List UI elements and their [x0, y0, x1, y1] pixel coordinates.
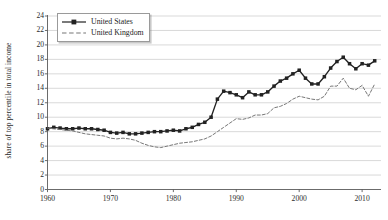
data-point-marker	[310, 82, 314, 86]
data-point-marker	[216, 97, 220, 101]
solid-line-with-square-marker-icon	[61, 17, 87, 27]
data-point-marker	[285, 76, 289, 80]
data-point-marker	[228, 91, 232, 95]
data-point-marker	[71, 127, 75, 130]
series-line-united-states	[48, 57, 375, 134]
legend-item-united-kingdom: United Kingdom	[61, 27, 144, 38]
data-point-marker	[172, 128, 176, 132]
data-point-marker	[247, 90, 251, 94]
data-point-marker	[253, 93, 257, 97]
data-point-marker	[159, 130, 163, 134]
data-point-marker	[316, 82, 320, 86]
legend: United States United Kingdom	[57, 13, 150, 42]
data-point-marker	[146, 131, 150, 135]
data-point-marker	[102, 128, 106, 132]
chart-figure: share of top percentile in total income …	[0, 0, 388, 220]
data-point-marker	[178, 129, 182, 133]
data-point-marker	[134, 132, 138, 136]
legend-label-united-kingdom: United Kingdom	[91, 29, 144, 37]
data-point-marker	[272, 84, 276, 88]
data-point-marker	[153, 130, 157, 134]
data-point-marker	[329, 66, 333, 70]
legend-item-united-states: United States	[61, 16, 144, 27]
data-point-marker	[128, 132, 132, 136]
data-point-marker	[190, 126, 194, 130]
dashed-line-icon	[61, 28, 87, 38]
data-point-marker	[121, 131, 125, 135]
data-point-marker	[348, 62, 352, 66]
data-point-marker	[197, 123, 201, 127]
data-point-marker	[96, 128, 100, 132]
legend-label-united-states: United States	[91, 18, 133, 26]
data-point-marker	[109, 131, 113, 135]
data-point-marker	[184, 127, 188, 130]
data-point-marker	[77, 126, 81, 130]
data-point-marker	[84, 127, 88, 130]
data-point-marker	[140, 131, 144, 135]
data-point-marker	[304, 76, 308, 80]
data-point-marker	[279, 79, 283, 83]
data-point-marker	[165, 129, 169, 133]
data-point-marker	[291, 72, 295, 76]
data-point-marker	[115, 131, 119, 135]
data-point-marker	[360, 62, 364, 66]
data-point-marker	[266, 90, 270, 94]
data-point-marker	[260, 93, 264, 97]
data-point-marker	[354, 67, 358, 71]
data-point-marker	[297, 68, 301, 72]
data-point-marker	[209, 115, 213, 119]
data-point-marker	[323, 75, 327, 79]
data-point-marker	[235, 93, 239, 97]
data-point-marker	[241, 96, 245, 100]
series-markers-united-states	[46, 55, 377, 135]
data-point-marker	[203, 121, 207, 125]
data-point-marker	[222, 89, 226, 93]
data-point-marker	[367, 63, 371, 67]
data-point-marker	[342, 55, 346, 59]
data-point-marker	[46, 127, 50, 130]
data-point-marker	[335, 60, 339, 64]
data-point-marker	[90, 127, 94, 130]
data-point-marker	[373, 59, 377, 63]
